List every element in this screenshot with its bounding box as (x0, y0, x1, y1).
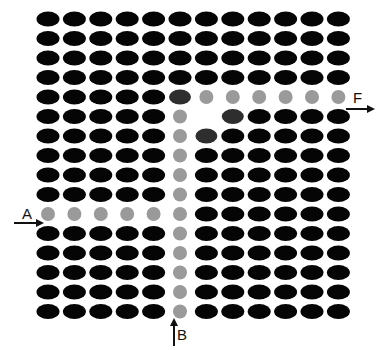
atom-black (221, 129, 244, 144)
atom-black (327, 51, 350, 66)
atom-black (116, 285, 139, 300)
atom-black (195, 148, 218, 163)
atom-black (116, 226, 139, 241)
atom-black (116, 12, 139, 27)
atom-black (142, 31, 165, 46)
atom-gray (199, 90, 213, 104)
atom-black (221, 12, 244, 27)
atom-black (221, 304, 244, 319)
atom-black (116, 109, 139, 124)
atom-black (169, 70, 192, 85)
atom-grid (37, 12, 350, 320)
atom-gray (120, 207, 134, 221)
atom-black (327, 31, 350, 46)
atom-black (221, 168, 244, 183)
atom-black (301, 226, 324, 241)
atom-black (142, 129, 165, 144)
atom-black (274, 265, 297, 280)
atom-black (63, 109, 86, 124)
atom-gray (331, 90, 345, 104)
atom-black (63, 70, 86, 85)
atom-black (195, 304, 218, 319)
atom-black (301, 246, 324, 261)
atom-black (195, 265, 218, 280)
atom-dark (222, 109, 244, 124)
atom-black (221, 246, 244, 261)
atom-black (89, 285, 112, 300)
atom-black (116, 304, 139, 319)
atom-black (142, 246, 165, 261)
atom-black (301, 207, 324, 222)
atom-black (89, 51, 112, 66)
atom-black (116, 90, 139, 105)
atom-black (195, 31, 218, 46)
atom-black (221, 148, 244, 163)
label-b: B (177, 326, 187, 343)
atom-black (248, 168, 271, 183)
atom-gray (173, 168, 187, 182)
atom-black (221, 187, 244, 202)
atom-dark (195, 129, 217, 144)
atom-black (195, 246, 218, 261)
atom-black (116, 168, 139, 183)
atom-black (195, 70, 218, 85)
atom-gray (173, 266, 187, 280)
atom-black (142, 90, 165, 105)
atom-black (301, 304, 324, 319)
atom-black (274, 70, 297, 85)
atom-gray (279, 90, 293, 104)
atom-black (142, 51, 165, 66)
atom-black (301, 70, 324, 85)
atom-black (63, 51, 86, 66)
atom-black (327, 109, 350, 124)
atom-black (274, 226, 297, 241)
atom-black (274, 148, 297, 163)
atom-black (301, 109, 324, 124)
atom-gray (94, 207, 108, 221)
atom-black (37, 226, 60, 241)
atom-black (327, 265, 350, 280)
atom-black (301, 265, 324, 280)
atom-black (116, 187, 139, 202)
atom-black (301, 187, 324, 202)
atom-black (327, 187, 350, 202)
atom-black (37, 70, 60, 85)
atom-black (142, 285, 165, 300)
atom-black (248, 207, 271, 222)
atom-black (248, 304, 271, 319)
atom-dark (169, 90, 191, 105)
atom-black (248, 226, 271, 241)
atom-black (37, 12, 60, 27)
atom-black (37, 90, 60, 105)
atom-gray (147, 207, 161, 221)
atom-black (195, 207, 218, 222)
atom-black (63, 148, 86, 163)
atom-black (248, 109, 271, 124)
atom-gray (67, 207, 81, 221)
atom-black (327, 207, 350, 222)
atom-black (248, 148, 271, 163)
atom-black (274, 129, 297, 144)
atom-black (327, 148, 350, 163)
label-f: F (353, 89, 362, 106)
atom-black (37, 109, 60, 124)
atom-black (301, 148, 324, 163)
atom-black (274, 285, 297, 300)
atom-black (195, 226, 218, 241)
atom-black (37, 129, 60, 144)
atom-black (142, 265, 165, 280)
atom-black (248, 246, 271, 261)
atom-black (89, 148, 112, 163)
atom-black (37, 246, 60, 261)
atom-black (116, 265, 139, 280)
atom-black (248, 129, 271, 144)
atom-black (89, 90, 112, 105)
atom-black (89, 12, 112, 27)
atom-black (327, 70, 350, 85)
atom-black (116, 31, 139, 46)
atom-black (327, 246, 350, 261)
atom-black (195, 12, 218, 27)
atom-black (37, 148, 60, 163)
atom-gray (41, 207, 55, 221)
atom-black (142, 226, 165, 241)
